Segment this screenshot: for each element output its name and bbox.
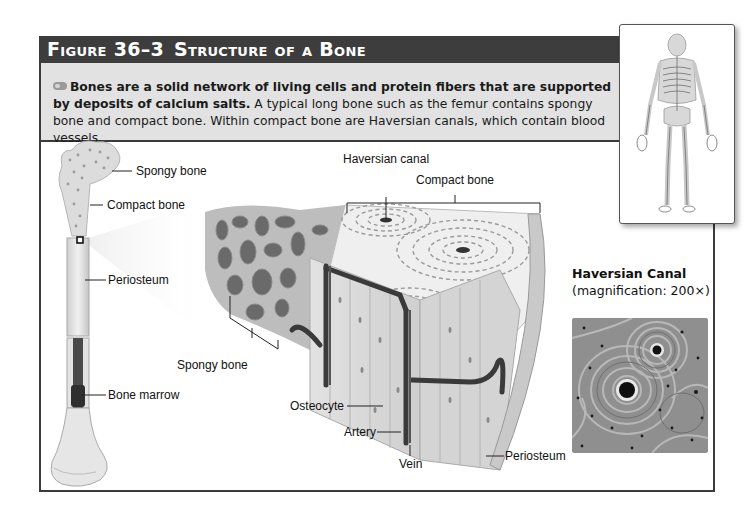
micrograph-caption: (magnification: 200×) bbox=[572, 283, 710, 298]
label-osteocyte: Osteocyte bbox=[290, 399, 344, 413]
label-spongy-bone-section: Spongy bone bbox=[177, 358, 248, 372]
label-vein: Vein bbox=[399, 457, 422, 471]
label-periosteum: Periosteum bbox=[108, 273, 169, 287]
label-artery: Artery bbox=[344, 425, 376, 439]
label-compact-bone: Compact bone bbox=[107, 198, 185, 212]
micrograph-image bbox=[572, 318, 708, 453]
haversian-micrograph bbox=[572, 318, 708, 453]
label-spongy-bone: Spongy bone bbox=[136, 164, 207, 178]
label-compact-bone-section: Compact bone bbox=[416, 173, 494, 187]
label-bone-marrow: Bone marrow bbox=[108, 388, 179, 402]
femur-illustration bbox=[51, 141, 120, 486]
zoom-beam bbox=[82, 200, 210, 340]
micrograph-title: Haversian Canal bbox=[572, 266, 686, 281]
zoom-marker bbox=[77, 237, 83, 243]
label-haversian-canal: Haversian canal bbox=[343, 152, 429, 166]
label-periosteum-section: Periosteum bbox=[505, 449, 566, 463]
